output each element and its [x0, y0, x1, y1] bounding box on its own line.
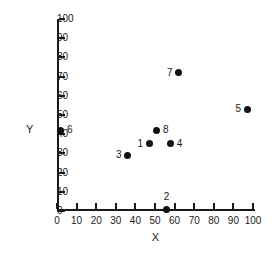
- x-tick-label: 80: [208, 216, 219, 226]
- data-point-label: 5: [236, 104, 242, 114]
- data-point-marker: [244, 106, 251, 113]
- x-tick-mark: [154, 203, 156, 209]
- x-tick-mark: [76, 203, 78, 209]
- data-point-label: 3: [116, 150, 122, 160]
- data-point-label: 2: [164, 192, 170, 202]
- x-tick-mark: [95, 203, 97, 209]
- x-tick-label: 30: [110, 216, 121, 226]
- x-axis-title: X: [152, 231, 159, 243]
- x-tick-mark: [232, 203, 234, 209]
- data-point-marker: [167, 140, 174, 147]
- x-tick-mark: [213, 203, 215, 209]
- x-axis-line: [57, 209, 255, 211]
- x-tick-mark: [193, 203, 195, 209]
- x-tick-label: 40: [130, 216, 141, 226]
- data-point-label: 6: [67, 125, 73, 135]
- plot-area: 0102030405060708090100 01020304050607080…: [57, 19, 254, 211]
- x-tick-label: 0: [54, 216, 60, 226]
- data-point-label: 8: [163, 125, 169, 135]
- data-point-marker: [124, 152, 131, 159]
- x-tick-mark: [252, 203, 254, 209]
- x-tick-label: 70: [189, 216, 200, 226]
- data-point-marker: [146, 140, 153, 147]
- data-point-marker: [153, 127, 160, 134]
- y-axis-title: Y: [26, 124, 33, 135]
- x-tick-label: 90: [228, 216, 239, 226]
- data-point-marker: [175, 69, 182, 76]
- x-tick-label: 10: [71, 216, 82, 226]
- x-tick-label: 100: [245, 216, 262, 226]
- x-tick-mark: [134, 203, 136, 209]
- x-tick-label: 50: [149, 216, 160, 226]
- data-point-label: 4: [177, 139, 183, 149]
- data-point-marker: [163, 206, 170, 213]
- x-tick-label: 20: [91, 216, 102, 226]
- scatter-plot-figure: 0102030405060708090100 01020304050607080…: [0, 0, 274, 259]
- data-point-label: 7: [167, 68, 173, 78]
- x-tick-mark: [174, 203, 176, 209]
- data-point-label: 1: [138, 139, 144, 149]
- x-tick-mark: [56, 203, 58, 209]
- x-tick-mark: [115, 203, 117, 209]
- x-tick-label: 60: [169, 216, 180, 226]
